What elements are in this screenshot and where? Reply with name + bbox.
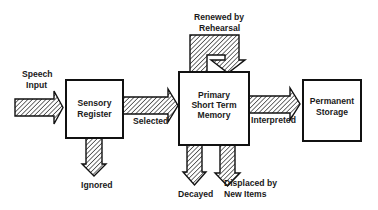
ignored-label: Ignored [81, 180, 113, 190]
sensory-register-line2: Register [77, 109, 112, 119]
sensory-register-line1: Sensory [78, 98, 112, 108]
permanent-storage-line2: Storage [316, 107, 348, 117]
speech-input-label-line1: Speech [22, 69, 53, 79]
primary-stm-line1: Primary [198, 90, 230, 100]
interpreted-label: Interpreted [251, 115, 296, 125]
speech-input-label-line2: Input [26, 80, 47, 90]
primary-stm-line2: Short Term [191, 100, 237, 110]
rehearsal-label-line1: Renewed by [194, 12, 244, 22]
speech-input-arrow [15, 91, 63, 124]
permanent-storage-line1: Permanent [310, 96, 355, 106]
displaced-label-line2: New Items [224, 189, 267, 199]
decayed-label: Decayed [178, 189, 213, 199]
ignored-arrow [82, 138, 106, 176]
rehearsal-label-line2: Rehearsal [199, 23, 240, 33]
sensory-register-box: Sensory Register [66, 80, 123, 138]
displaced-label-line1: Displaced by [224, 178, 277, 188]
decayed-arrow [183, 145, 206, 185]
primary-stm-line3: Memory [198, 110, 231, 120]
rehearsal-loop-arrow [190, 35, 245, 73]
permanent-storage-box: Permanent Storage [303, 80, 361, 141]
primary-stm-box: Primary Short Term Memory [179, 72, 249, 145]
selected-label: Selected [133, 116, 168, 126]
memory-flow-diagram: Speech Input Ignored Selected Renewed by… [0, 0, 378, 210]
